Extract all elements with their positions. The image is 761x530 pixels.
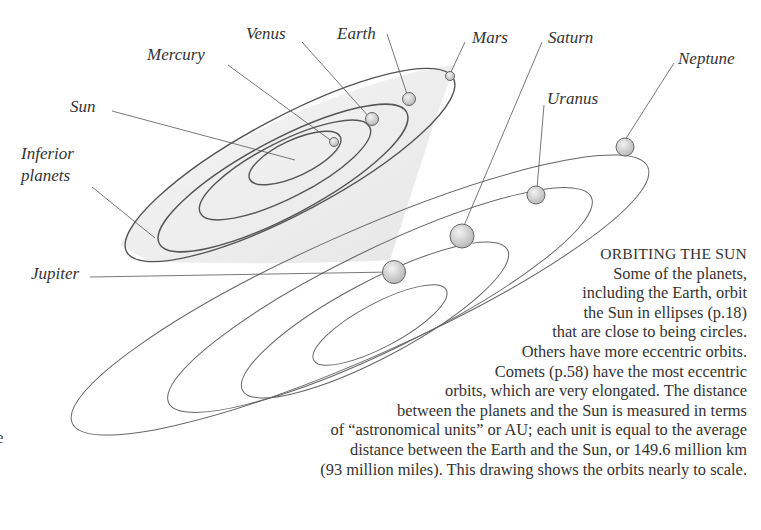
caption-line: Some of the planets,	[277, 264, 747, 284]
caption-line: that are close to being circles.	[277, 322, 747, 342]
label-uranus: Uranus	[547, 89, 598, 109]
planet-earth	[403, 93, 416, 106]
planet-mars	[446, 72, 455, 81]
label-sun: Sun	[70, 97, 96, 117]
label-mercury: Mercury	[147, 45, 205, 65]
label-neptune: Neptune	[678, 49, 735, 69]
label-mars: Mars	[472, 28, 508, 48]
caption-line: (93 million miles). This drawing shows t…	[277, 460, 747, 480]
label-earth: Earth	[337, 24, 376, 44]
label-inferior-line1: Inferior	[21, 144, 74, 164]
caption-line: of “astronomical units” or AU; each unit…	[277, 420, 747, 440]
label-saturn: Saturn	[548, 28, 593, 48]
label-jupiter: Jupiter	[31, 264, 79, 284]
caption-line: between the planets and the Sun is measu…	[277, 401, 747, 421]
label-venus: Venus	[246, 24, 286, 44]
planet-mercury	[330, 138, 339, 147]
caption-line: including the Earth, orbit	[277, 283, 747, 303]
caption-line: orbits, which are very elongated. The di…	[277, 381, 747, 401]
caption-line: Comets (p.58) have the most eccentric	[277, 362, 747, 382]
planet-venus	[366, 113, 379, 126]
caption-title: ORBITING THE SUN	[277, 244, 747, 264]
planet-uranus	[527, 186, 545, 204]
label-inferior-line2: planets	[21, 166, 70, 186]
planet-neptune	[616, 138, 634, 156]
caption-line: distance between the Earth and the Sun, …	[277, 440, 747, 460]
caption-block: ORBITING THE SUN Some of the planets, in…	[277, 244, 747, 479]
caption-line: Others have more eccentric orbits.	[277, 342, 747, 362]
caption-line: the Sun in ellipses (p.18)	[277, 303, 747, 323]
clipped-margin-text: e	[0, 428, 4, 448]
